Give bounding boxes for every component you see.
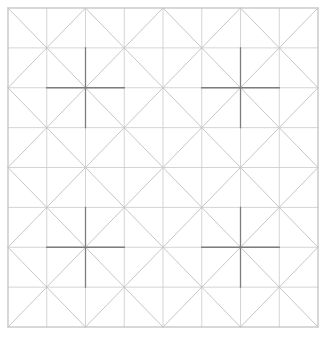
lattice-pattern-canvas: [0, 0, 328, 337]
pattern-figure: [0, 0, 328, 337]
